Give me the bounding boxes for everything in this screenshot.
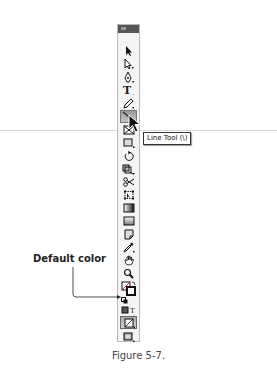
svg-text:T: T xyxy=(130,307,135,314)
rectangle-icon xyxy=(123,138,135,148)
arrow-icon xyxy=(124,46,134,56)
gradient-feather-icon xyxy=(123,216,135,226)
pencil-icon xyxy=(123,98,135,109)
screen-mode-button[interactable] xyxy=(120,331,137,343)
rotate-tool[interactable] xyxy=(120,150,137,162)
pen-tool[interactable] xyxy=(120,71,137,83)
magnifier-icon xyxy=(123,268,135,279)
panel-header[interactable] xyxy=(118,25,139,33)
callout-label: Default color xyxy=(33,253,106,264)
default-color-button[interactable] xyxy=(120,296,138,304)
type-tool[interactable]: T. xyxy=(120,84,137,96)
gradient-feather-tool[interactable] xyxy=(120,215,137,227)
free-transform-tool[interactable] xyxy=(120,189,137,201)
tools-panel: T. xyxy=(117,24,140,342)
note-tool[interactable] xyxy=(120,228,137,240)
tooltip: Line Tool (\) xyxy=(143,132,191,145)
direct-selection-tool[interactable] xyxy=(120,58,137,70)
selection-tool[interactable] xyxy=(120,45,137,57)
apply-color-icon xyxy=(123,318,135,328)
default-color-icon xyxy=(121,297,128,304)
rectangle-tool[interactable] xyxy=(120,137,137,149)
scissors-icon xyxy=(123,177,135,187)
mouse-cursor-icon xyxy=(128,114,144,134)
scissors-tool[interactable] xyxy=(120,176,137,188)
figure-caption: Figure 5-7. xyxy=(0,350,277,361)
scale-icon xyxy=(122,164,135,175)
screen-mode-icon xyxy=(123,332,135,342)
submenu-dot: . xyxy=(132,90,134,96)
gradient-icon xyxy=(123,203,135,213)
fill-stroke-swatch[interactable] xyxy=(120,280,137,296)
fill-stroke-icon xyxy=(121,281,136,296)
rotate-icon xyxy=(123,151,135,162)
formatting-container[interactable]: T xyxy=(120,305,137,314)
eyedropper-tool[interactable] xyxy=(120,241,137,253)
transform-icon xyxy=(123,190,135,200)
note-icon xyxy=(123,229,135,240)
hollow-arrow-icon xyxy=(123,59,135,69)
zoom-tool[interactable] xyxy=(120,267,137,279)
type-icon: T xyxy=(123,85,131,96)
hand-icon xyxy=(123,255,135,266)
apply-color-button[interactable] xyxy=(120,316,137,329)
scale-tool[interactable] xyxy=(120,163,137,175)
pencil-tool[interactable] xyxy=(120,97,137,109)
pen-icon xyxy=(123,72,135,83)
grip-icon xyxy=(121,27,126,30)
hand-tool[interactable] xyxy=(120,254,137,266)
formatting-icon: T xyxy=(121,306,136,314)
eyedropper-icon xyxy=(123,242,135,253)
gradient-tool[interactable] xyxy=(120,202,137,214)
